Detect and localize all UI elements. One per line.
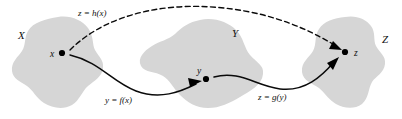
element-dot-y [203, 76, 209, 82]
set-label-x: X [17, 29, 26, 41]
element-label-x: x [49, 49, 55, 59]
equation-label-f: y = f(x) [104, 95, 132, 105]
set-blob-z [302, 16, 385, 107]
equation-label-h: z = h(x) [77, 8, 107, 18]
element-label-y: y [196, 66, 202, 76]
element-dot-x [59, 50, 65, 56]
element-label-z: z [353, 48, 358, 58]
element-dot-z [342, 49, 348, 55]
composition-of-functions-figure: X Y Z x y z z = h(x) y = f(x) z = g(y) [0, 0, 402, 119]
equation-label-g: z = g(y) [257, 92, 287, 102]
set-label-z: Z [382, 33, 389, 45]
